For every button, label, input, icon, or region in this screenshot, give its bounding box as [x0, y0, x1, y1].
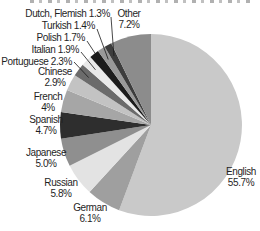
slice-label-chinese: Chinese2.9%	[25, 66, 85, 88]
slice-name: Dutch, Flemish	[25, 8, 86, 19]
pie-chart: Dutch, Flemish 1.3% Turkish 1.4% Polish …	[0, 0, 260, 231]
slice-label-italian: Italian 1.9%	[0, 44, 79, 55]
slice-pct: 4%	[18, 102, 78, 113]
slice-label-dutch-flemish: Dutch, Flemish 1.3%	[0, 8, 110, 19]
slice-label-turkish: Turkish 1.4%	[0, 20, 95, 31]
slice-name: French	[18, 91, 78, 102]
slice-pct: 4.7%	[16, 125, 76, 136]
slice-pct: 55.7%	[216, 177, 260, 188]
slice-label-other: Other7.2%	[99, 8, 159, 30]
slice-name: Spanish	[16, 114, 76, 125]
slice-label-russian: Russian5.8%	[31, 177, 91, 199]
slice-label-french: French4%	[18, 91, 78, 113]
slice-name: Japanese	[16, 147, 76, 158]
slice-name: Italian	[32, 44, 56, 55]
slice-pct: 5.8%	[31, 188, 91, 199]
slice-name: English	[216, 166, 260, 177]
slice-name: Other	[99, 8, 159, 19]
slice-name: Russian	[31, 177, 91, 188]
slice-pct: 2.9%	[25, 77, 85, 88]
slice-label-english: English55.7%	[216, 166, 260, 188]
slice-label-german: German6.1%	[60, 202, 120, 224]
slice-pct: 5.0%	[16, 158, 76, 169]
slice-name: German	[60, 202, 120, 213]
slice-label-spanish: Spanish4.7%	[16, 114, 76, 136]
slice-label-japanese: Japanese5.0%	[16, 147, 76, 169]
slice-name: Polish	[37, 32, 62, 43]
slice-pct: 7.2%	[99, 19, 159, 30]
slice-name: Turkish	[42, 20, 72, 31]
slice-pct: 1.9%	[58, 44, 79, 55]
slice-pct: 1.7%	[64, 32, 85, 43]
slice-label-polish: Polish 1.7%	[0, 32, 85, 43]
slice-name: Chinese	[25, 66, 85, 77]
slice-pct: 6.1%	[60, 213, 120, 224]
slice-pct: 1.4%	[74, 20, 95, 31]
